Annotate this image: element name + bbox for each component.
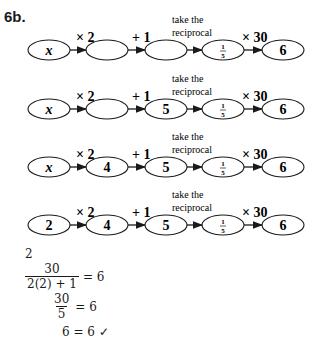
box-value: x — [45, 43, 53, 58]
svg-text:5: 5 — [221, 227, 225, 235]
box-value: 5 — [163, 218, 170, 233]
op-times-30: × 30 — [242, 89, 267, 104]
svg-text:reciprocal: reciprocal — [172, 27, 212, 38]
svg-text:5: 5 — [221, 52, 225, 60]
flow-diagrams: × 2+ 1take thereciprocal× 30x156× 2+ 1ta… — [0, 0, 316, 240]
flow-box — [145, 40, 187, 60]
svg-text:reciprocal: reciprocal — [172, 144, 212, 155]
op-reciprocal: take the — [172, 73, 204, 84]
svg-text:1: 1 — [221, 160, 225, 168]
box-value: 6 — [280, 218, 287, 233]
box-value: 6 — [280, 160, 287, 175]
box-value: 5 — [163, 102, 170, 117]
op-plus-1: + 1 — [132, 205, 150, 220]
op-plus-1: + 1 — [132, 147, 150, 162]
check-line-3: 6 = 6 ✓ — [62, 325, 109, 339]
box-value: 4 — [104, 218, 111, 233]
box-value: 5 — [163, 160, 170, 175]
check-line-2: 30 5 = 6 — [52, 292, 97, 321]
svg-text:5: 5 — [221, 169, 225, 177]
box-value: 6 — [280, 43, 287, 58]
svg-text:1: 1 — [221, 102, 225, 110]
op-reciprocal: take the — [172, 131, 204, 142]
box-value: 6 — [280, 102, 287, 117]
fraction: 30 5 — [52, 292, 71, 321]
op-reciprocal: take the — [172, 14, 204, 25]
box-value: x — [45, 160, 53, 175]
op-plus-1: + 1 — [132, 89, 150, 104]
svg-text:reciprocal: reciprocal — [172, 202, 212, 213]
svg-text:5: 5 — [221, 111, 225, 119]
check-value: 2 — [25, 247, 33, 261]
op-plus-1: + 1 — [132, 30, 150, 45]
svg-text:1: 1 — [221, 218, 225, 226]
box-value: 2 — [46, 218, 53, 233]
flow-box — [86, 99, 128, 119]
svg-text:reciprocal: reciprocal — [172, 86, 212, 97]
box-value: x — [45, 102, 53, 117]
svg-text:1: 1 — [221, 43, 225, 51]
op-reciprocal: take the — [172, 189, 204, 200]
op-times-30: × 30 — [242, 205, 267, 220]
op-times-30: × 30 — [242, 147, 267, 162]
check-line-1: 30 2(2) + 1 = 6 — [25, 262, 104, 291]
flow-box — [86, 40, 128, 60]
op-times-30: × 30 — [242, 30, 267, 45]
checkmark-icon: ✓ — [99, 325, 109, 339]
fraction: 30 2(2) + 1 — [25, 262, 79, 291]
box-value: 4 — [104, 160, 111, 175]
